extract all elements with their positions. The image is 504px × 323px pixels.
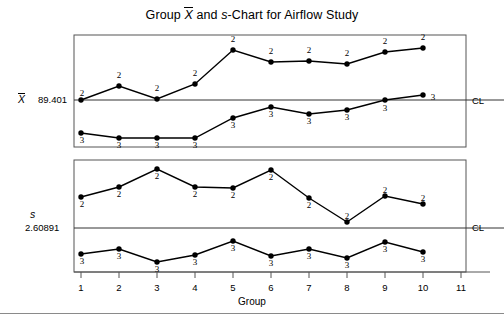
s-upper-point-label-2: 2: [113, 189, 125, 199]
s-upper-point-label-10: 2: [417, 193, 429, 203]
x-tick-label-6: 6: [259, 282, 283, 293]
s-lower-point-label-10: 3: [417, 254, 429, 264]
xbar-upper-point-label-3: 2: [151, 83, 163, 93]
s-lower-series-line: [81, 241, 423, 262]
x-tick-label-3: 3: [145, 282, 169, 293]
s-lower-point-label-8: 3: [341, 260, 353, 270]
chart-plot-surface: [0, 0, 504, 323]
s-lower-point-label-2: 3: [113, 251, 125, 261]
s-upper-point-label-7: 2: [303, 200, 315, 210]
s-upper-point-label-8: 2: [341, 211, 353, 221]
s-lower-point-label-7: 3: [303, 251, 315, 261]
s-lower-point-label-9: 3: [379, 244, 391, 254]
xbar-upper-point-label-7: 2: [303, 45, 315, 55]
s-upper-point-label-3: 2: [151, 171, 163, 181]
xbar-axis-label: X: [18, 93, 25, 105]
xbar-upper-point-label-9: 2: [379, 36, 391, 46]
x-axis-title: Group: [0, 296, 504, 307]
footer-divider: [0, 313, 504, 314]
xbar-upper-point-label-5: 2: [227, 34, 239, 44]
s-lower-point-label-4: 3: [189, 257, 201, 267]
x-tick-label-10: 10: [411, 282, 435, 293]
xbar-upper-point-label-8: 2: [341, 48, 353, 58]
s-upper-series-line: [81, 169, 423, 222]
xbar-lower-point-label-7: 3: [303, 116, 315, 126]
s-cl-label: CL: [472, 222, 484, 233]
s-upper-point-label-4: 2: [189, 189, 201, 199]
s-lower-point-label-6: 3: [265, 258, 277, 268]
xbar-lower-point-label-5: 3: [227, 120, 239, 130]
s-axis-label: s: [30, 208, 35, 220]
s-lower-point-label-1: 3: [76, 256, 88, 266]
xbar-lower-point-label-6: 3: [265, 109, 277, 119]
xbar-axis-symbol: X: [18, 93, 25, 105]
xbar-lower-point-label-10: 3: [427, 92, 439, 102]
x-tick-label-7: 7: [297, 282, 321, 293]
xbar-lower-point-label-1: 3: [76, 135, 88, 145]
x-tick-label-2: 2: [107, 282, 131, 293]
xbar-lower-point-label-3: 3: [151, 140, 163, 150]
s-upper-point-label-9: 2: [379, 185, 391, 195]
xbar-upper-point-label-10: 2: [417, 32, 429, 42]
xbar-center-value: 89.401: [38, 94, 67, 105]
s-center-value: 2.60891: [25, 222, 59, 233]
xbar-lower-point-label-9: 3: [379, 103, 391, 113]
s-upper-point-label-5: 2: [227, 190, 239, 200]
chart-canvas: Group X and s-Chart for Airflow Study: [0, 0, 504, 323]
xbar-cl-label: CL: [472, 95, 484, 106]
xbar-upper-point-label-4: 2: [189, 68, 201, 78]
xbar-upper-point-label-2: 2: [113, 70, 125, 80]
figure-caption: [30, 316, 474, 323]
x-tick-label-5: 5: [221, 282, 245, 293]
x-tick-label-4: 4: [183, 282, 207, 293]
xbar-lower-point-label-8: 3: [341, 112, 353, 122]
xbar-lower-point-label-2: 3: [113, 140, 125, 150]
s-lower-point-label-5: 3: [227, 243, 239, 253]
x-axis-ticks: [81, 272, 461, 278]
xbar-upper-series-markers: [78, 45, 425, 102]
xbar-upper-point-label-6: 2: [265, 46, 277, 56]
x-tick-label-8: 8: [335, 282, 359, 293]
x-tick-label-11: 11: [449, 282, 473, 293]
s-upper-point-label-1: 2: [76, 199, 88, 209]
s-upper-point-label-6: 2: [265, 172, 277, 182]
s-upper-series-markers: [78, 166, 425, 224]
s-lower-point-label-3: 3: [151, 264, 163, 274]
xbar-upper-series-line: [81, 48, 423, 100]
xbar-lower-point-label-4: 3: [189, 140, 201, 150]
s-lower-series-markers: [78, 238, 425, 264]
xbar-upper-point-label-1: 2: [76, 88, 88, 98]
x-tick-label-9: 9: [373, 282, 397, 293]
xbar-lower-series-line: [81, 95, 423, 138]
x-tick-label-1: 1: [69, 282, 93, 293]
